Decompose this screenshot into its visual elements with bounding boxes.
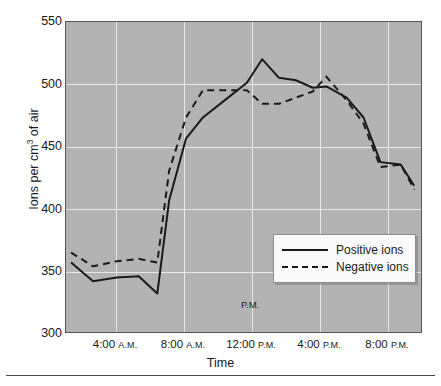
y-tick-300: 300 <box>2 327 62 340</box>
plot-area: P.M. Positive ions Negative ions <box>65 21 422 333</box>
y-axis-title-exponent: 3 <box>25 140 35 145</box>
caption-divider <box>6 375 435 376</box>
x-tick-1200pm-time: 12:00 <box>226 338 255 350</box>
x-tick-0400pm: 4:00 P.M. <box>297 338 340 351</box>
x-tick-0800am-time: 8:00 <box>161 338 183 350</box>
legend-swatch-dashed-line-icon <box>282 262 328 272</box>
y-tick-350: 350 <box>2 265 62 278</box>
series-lines <box>66 22 421 332</box>
x-tick-0400pm-meridiem: P.M. <box>323 340 341 350</box>
x-tick-1200pm: 12:00 P.M. <box>226 338 276 351</box>
chart-legend: Positive ions Negative ions <box>273 234 416 283</box>
y-axis-title-suffix: of air <box>27 108 41 139</box>
legend-label-positive-ions: Positive ions <box>336 243 403 257</box>
x-tick-0800pm-time: 8:00 <box>365 338 387 350</box>
y-axis-title-prefix: Ions per cm <box>27 144 41 209</box>
y-tick-550: 550 <box>2 15 62 28</box>
x-axis-title: Time <box>0 356 441 370</box>
legend-entry-negative-ions: Negative ions <box>282 258 407 275</box>
x-tick-0400pm-time: 4:00 <box>297 338 319 350</box>
ion-concentration-chart: 550 500 450 400 350 300 Ions per cm3 of … <box>0 0 441 386</box>
legend-entry-positive-ions: Positive ions <box>282 241 407 258</box>
x-tick-0400am-time: 4:00 <box>93 338 115 350</box>
y-axis-title: Ions per cm3 of air <box>27 59 41 259</box>
x-tick-0800am: 8:00 A.M. <box>161 338 206 351</box>
x-tick-0800pm-meridiem: P.M. <box>391 340 409 350</box>
x-tick-0800am-meridiem: A.M. <box>186 340 205 350</box>
x-tick-0800pm: 8:00 P.M. <box>365 338 408 351</box>
legend-swatch-solid-line-icon <box>282 245 328 255</box>
x-tick-0400am: 4:00 A.M. <box>93 338 138 351</box>
x-tick-1200pm-meridiem: P.M. <box>258 340 276 350</box>
x-tick-0400am-meridiem: A.M. <box>118 340 137 350</box>
legend-label-negative-ions: Negative ions <box>336 260 409 274</box>
pm-annotation: P.M. <box>241 299 259 310</box>
